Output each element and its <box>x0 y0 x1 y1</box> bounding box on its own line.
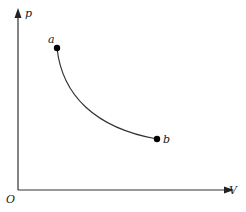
origin-label: O <box>6 193 15 206</box>
point-b-label: b <box>163 133 170 146</box>
x-axis <box>18 187 234 194</box>
point-a-label: a <box>48 33 55 46</box>
process-curve <box>57 48 157 139</box>
point-b <box>154 136 160 142</box>
y-axis-label: p <box>25 7 32 20</box>
pv-diagram: p V O a b <box>0 0 246 212</box>
point-a <box>54 45 60 51</box>
x-axis-label: V <box>229 184 238 197</box>
y-axis-arrow-icon <box>15 8 22 18</box>
y-axis <box>15 8 22 190</box>
